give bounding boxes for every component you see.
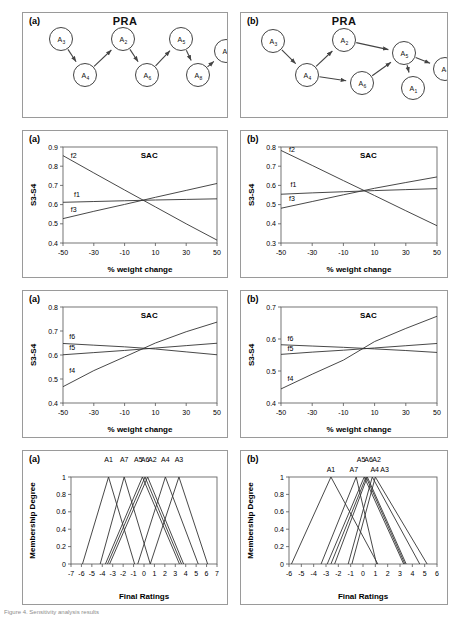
series-label: f6 bbox=[69, 333, 75, 340]
x-tick-label: -1 bbox=[348, 570, 354, 577]
y-tick-label: 0.7 bbox=[48, 328, 58, 335]
membership-triangle bbox=[352, 477, 427, 564]
y-tick-label: 0.4 bbox=[56, 526, 66, 533]
x-tick-label: -5 bbox=[298, 570, 304, 577]
pra-node: A8 bbox=[187, 64, 210, 87]
x-axis-label: % weight change bbox=[327, 425, 392, 434]
x-tick-label: -30 bbox=[89, 249, 99, 256]
pra-node: A6 bbox=[351, 72, 374, 95]
x-tick-label: -2 bbox=[335, 570, 341, 577]
panel-tag: (a) bbox=[29, 454, 40, 464]
x-tick-label: -50 bbox=[276, 409, 286, 416]
y-tick-label: 0.4 bbox=[266, 400, 276, 407]
series-line bbox=[63, 183, 217, 218]
x-tick-label: 30 bbox=[182, 249, 190, 256]
figure-sheet: (a) PRA A3A4A2A6A5A8A1 (b) PRA A3A4A2A6A… bbox=[0, 0, 468, 623]
panel-tag: (b) bbox=[247, 294, 259, 304]
series-label: f4 bbox=[287, 375, 293, 382]
pra-title-a: PRA bbox=[23, 15, 227, 27]
x-tick-label: -50 bbox=[58, 249, 68, 256]
panel-sac-b-row3: (b) 0.40.50.60.7-50-30-10103050% weight … bbox=[240, 290, 448, 438]
x-tick-label: -10 bbox=[120, 409, 130, 416]
x-tick-label: -3 bbox=[323, 570, 329, 577]
membership-triangle bbox=[100, 477, 150, 564]
sac-chart-a-row2: 0.40.50.60.70.80.9-50-30-10103050% weigh… bbox=[23, 131, 227, 277]
pra-node: A3 bbox=[262, 30, 285, 53]
panel-sac-a-row2: (a) 0.40.50.60.70.80.9-50-30-10103050% w… bbox=[22, 130, 228, 278]
x-tick-label: -4 bbox=[99, 570, 105, 577]
series-label: f3 bbox=[289, 195, 295, 202]
pra-node: A4 bbox=[296, 64, 319, 87]
pra-edge bbox=[407, 65, 409, 72]
y-tick-label: 0.7 bbox=[266, 304, 276, 311]
x-tick-label: -10 bbox=[120, 249, 130, 256]
x-tick-label: -6 bbox=[78, 570, 84, 577]
x-tick-label: -10 bbox=[338, 249, 348, 256]
y-tick-label: 0.8 bbox=[48, 163, 58, 170]
panel-tag: (a) bbox=[29, 134, 40, 144]
x-tick-label: 50 bbox=[213, 249, 221, 256]
pra-node: A1 bbox=[402, 77, 425, 100]
x-tick-label: 1 bbox=[152, 570, 156, 577]
series-label: f5 bbox=[69, 344, 75, 351]
y-tick-label: 1 bbox=[62, 474, 66, 481]
y-axis-label: S3-S4 bbox=[29, 343, 38, 366]
pra-edge bbox=[319, 77, 346, 81]
sac-chart-b-row2: 0.30.40.50.60.70.8-50-30-10103050% weigh… bbox=[241, 131, 447, 277]
x-tick-label: 5 bbox=[194, 570, 198, 577]
y-tick-label: 0 bbox=[280, 561, 284, 568]
y-axis-label: Membership Degree bbox=[246, 482, 255, 559]
membership-label: A2 bbox=[148, 456, 157, 463]
sac-chart-a-row3: 0.40.50.60.70.8-50-30-10103050% weight c… bbox=[23, 291, 227, 437]
x-tick-label: 10 bbox=[152, 249, 160, 256]
membership-label: A1 bbox=[104, 456, 113, 463]
series-label: f1 bbox=[74, 191, 80, 198]
y-tick-label: 0.2 bbox=[274, 543, 284, 550]
figure-caption: Figure 4. Sensitivity analysis results bbox=[4, 609, 464, 615]
pra-edge bbox=[94, 50, 111, 66]
x-tick-label: 2 bbox=[163, 570, 167, 577]
membership-triangle bbox=[291, 477, 377, 564]
series-label: f2 bbox=[289, 146, 295, 153]
chart-title: SAC bbox=[360, 311, 377, 320]
x-tick-label: 4 bbox=[184, 570, 188, 577]
pra-graph-a: A3A4A2A6A5A8A1 bbox=[23, 13, 227, 117]
y-tick-label: 0.8 bbox=[56, 491, 66, 498]
membership-triangle bbox=[331, 477, 405, 564]
y-tick-label: 0.5 bbox=[266, 201, 276, 208]
membership-label: A7 bbox=[349, 466, 358, 473]
x-tick-label: 50 bbox=[433, 249, 441, 256]
panel-sac-a-row3: (a) 0.40.50.60.70.8-50-30-10103050% weig… bbox=[22, 290, 228, 438]
chart-title: SAC bbox=[141, 311, 158, 320]
membership-label: A3 bbox=[175, 456, 184, 463]
pra-node: A3 bbox=[50, 28, 73, 51]
panel-mf-b: (b) 00.20.40.60.81-6-5-4-3-2-10123456Fin… bbox=[240, 450, 448, 605]
x-tick-label: 6 bbox=[205, 570, 209, 577]
x-tick-label: -3 bbox=[110, 570, 116, 577]
chart-title: SAC bbox=[360, 151, 377, 160]
y-tick-label: 0.8 bbox=[274, 491, 284, 498]
series-label: f3 bbox=[71, 206, 77, 213]
y-tick-label: 0.6 bbox=[266, 182, 276, 189]
pra-node: A5 bbox=[170, 28, 193, 51]
series-line bbox=[281, 343, 437, 354]
series-label: f6 bbox=[287, 335, 293, 342]
panel-tag: (b) bbox=[247, 454, 259, 464]
x-axis-label: Final Ratings bbox=[119, 592, 170, 601]
x-tick-label: 3 bbox=[173, 570, 177, 577]
x-tick-label: 2 bbox=[386, 570, 390, 577]
x-axis-label: % weight change bbox=[327, 265, 392, 274]
y-axis-label: S3-S4 bbox=[247, 183, 256, 206]
panel-tag: (a) bbox=[29, 294, 40, 304]
y-tick-label: 0.2 bbox=[56, 543, 66, 550]
membership-label: A4 bbox=[161, 456, 170, 463]
pra-edge bbox=[356, 43, 388, 50]
series-label: f5 bbox=[287, 345, 293, 352]
series-line bbox=[63, 322, 217, 387]
x-axis-label: % weight change bbox=[108, 425, 173, 434]
y-axis-label: S3-S4 bbox=[247, 343, 256, 366]
pra-edge bbox=[282, 50, 296, 64]
series-line bbox=[281, 150, 437, 225]
x-tick-label: 50 bbox=[213, 409, 221, 416]
membership-label: A1 bbox=[327, 466, 336, 473]
